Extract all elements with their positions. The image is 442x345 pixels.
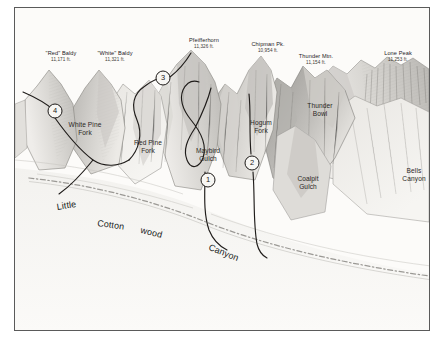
route-marker-1[interactable]: 1 (201, 173, 216, 188)
route-marker-4[interactable]: 4 (48, 104, 63, 119)
illustration-frame: "Red" Baldy11,171 ft."White" Baldy11,321… (14, 7, 430, 331)
panorama-page: "Red" Baldy11,171 ft."White" Baldy11,321… (0, 0, 442, 345)
route-marker-2[interactable]: 2 (245, 156, 260, 171)
route-marker-3[interactable]: 3 (156, 71, 171, 86)
mountain-panorama-artwork (15, 8, 430, 331)
